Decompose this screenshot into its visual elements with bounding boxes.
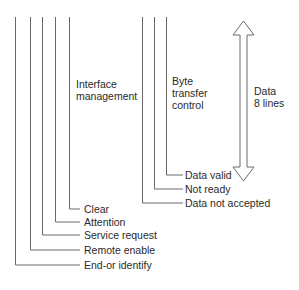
line-clear [70,17,81,209]
label-line: Data [254,85,284,97]
label-data-valid: Data valid [185,169,232,181]
line-attention [56,17,81,222]
label-line: transfer [172,87,208,99]
label-line: 8 lines [254,97,284,109]
label-data-not-accepted: Data not accepted [185,197,270,209]
label-remote-enable: Remote enable [84,244,155,256]
label-line: Byte [172,75,208,87]
label-clear: Clear [84,203,109,215]
byte-transfer-control-label: Byte transfer control [172,75,208,111]
label-not-ready: Not ready [185,183,231,195]
label-attention: Attention [84,216,125,228]
line-end-or-identify [16,17,81,265]
data-lines-label: Data 8 lines [254,85,284,109]
line-service-request [43,17,81,235]
label-line: control [172,99,208,111]
data-bus-arrow [233,21,254,181]
interface-management-label: Interface management [76,78,137,102]
label-line: management [76,90,137,102]
label-end-or-identify: End-or identify [84,259,152,271]
label-service-request: Service request [84,229,157,241]
label-line: Interface [76,78,137,90]
